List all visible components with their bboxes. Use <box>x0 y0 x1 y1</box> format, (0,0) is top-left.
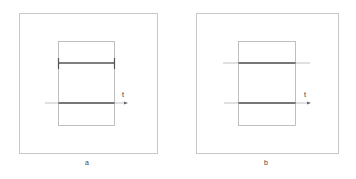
panel-b <box>197 14 339 154</box>
caption-a: a <box>85 159 89 166</box>
caption-b: b <box>264 159 268 166</box>
diagram-canvas <box>0 0 356 179</box>
axis-arrowhead-icon <box>124 102 128 105</box>
axis-arrowhead-icon <box>307 102 311 105</box>
inner-rectangle <box>239 42 296 126</box>
outer-frame <box>20 14 158 154</box>
inner-rectangle <box>59 42 115 126</box>
panel-a <box>20 14 158 154</box>
axis-label-t: t <box>122 91 124 98</box>
axis-label-t: t <box>304 91 306 98</box>
outer-frame <box>197 14 339 154</box>
